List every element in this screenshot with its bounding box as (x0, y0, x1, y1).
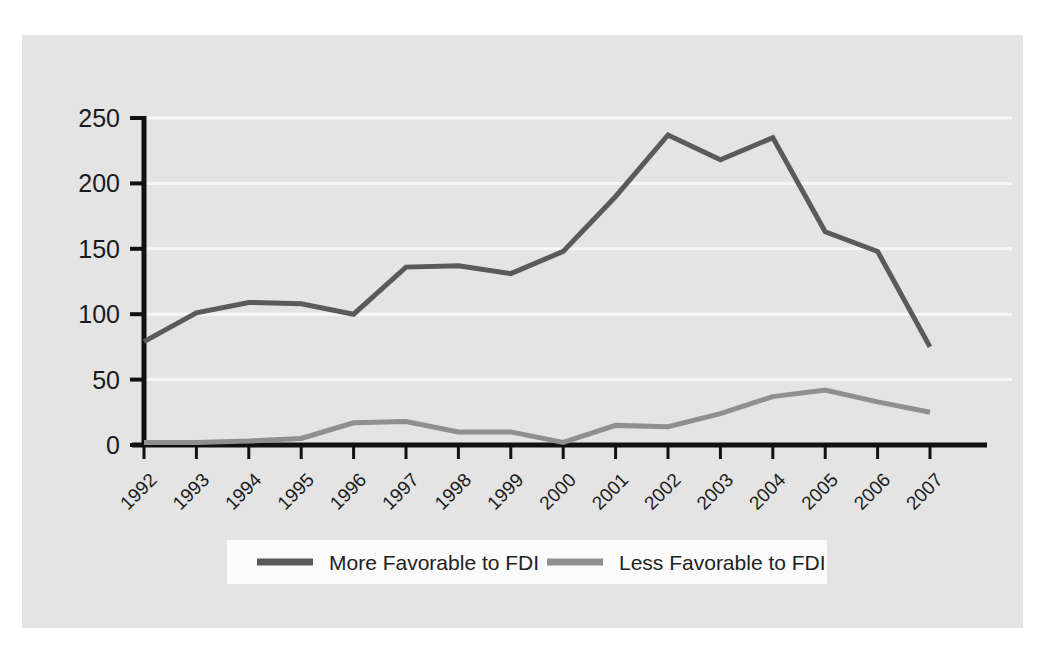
plot-area: 050100150200250 199219931994199519961997… (22, 35, 1023, 628)
y-tick-label: 150 (78, 235, 120, 263)
legend-label-more-favorable[interactable]: More Favorable to FDI (329, 551, 539, 574)
y-tick-label: 200 (78, 169, 120, 197)
x-tick-label-1999: 1999 (483, 469, 528, 514)
x-tick-label-2004: 2004 (745, 469, 790, 514)
x-tick-label-2002: 2002 (640, 469, 685, 514)
line-chart: 050100150200250 199219931994199519961997… (22, 35, 1023, 628)
y-tick-labels: 050100150200250 (78, 104, 120, 459)
x-tick-label-1995: 1995 (273, 469, 318, 514)
data-series (144, 135, 930, 442)
y-tick-label: 250 (78, 104, 120, 132)
chart-panel: 050100150200250 199219931994199519961997… (22, 35, 1023, 628)
series-line-less-favorable (144, 390, 930, 442)
y-tick-label: 100 (78, 300, 120, 328)
legend-label-less-favorable[interactable]: Less Favorable to FDI (619, 551, 826, 574)
x-tick-label-1993: 1993 (168, 469, 213, 514)
figure-root: 050100150200250 199219931994199519961997… (0, 0, 1045, 657)
x-axis (132, 445, 987, 459)
x-tick-label-1992: 1992 (116, 469, 161, 514)
gridlines (142, 118, 1012, 380)
x-tick-label-1994: 1994 (221, 469, 266, 514)
x-tick-label-1998: 1998 (430, 469, 475, 514)
y-axis (130, 116, 144, 445)
chart-legend: More Favorable to FDILess Favorable to F… (227, 540, 827, 584)
y-tick-label: 50 (92, 366, 120, 394)
x-tick-label-2005: 2005 (797, 469, 842, 514)
x-tick-labels: 1992199319941995199619971998199920002001… (116, 469, 947, 514)
x-tick-label-2006: 2006 (850, 469, 895, 514)
x-tick-label-2007: 2007 (902, 469, 947, 514)
x-tick-label-1996: 1996 (326, 469, 371, 514)
x-tick-label-2001: 2001 (588, 469, 633, 514)
x-tick-label-1997: 1997 (378, 469, 423, 514)
y-tick-label: 0 (106, 431, 120, 459)
x-tick-label-2003: 2003 (692, 469, 737, 514)
x-tick-label-2000: 2000 (535, 469, 580, 514)
